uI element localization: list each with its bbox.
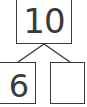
part-value-left: 6 (9, 67, 29, 105)
part-box-left: 6 (0, 62, 36, 104)
connector-left (18, 44, 44, 62)
part-box-right-empty[interactable] (50, 62, 85, 104)
whole-value: 10 (23, 1, 64, 41)
connector-right (44, 44, 70, 62)
whole-box: 10 (16, 0, 72, 44)
